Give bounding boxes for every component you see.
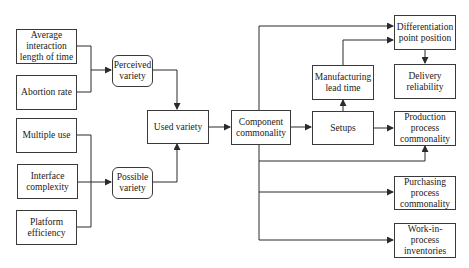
node-differentiation-point: Differentiation point position xyxy=(394,15,456,50)
edge-possible-to-used xyxy=(152,144,177,182)
node-label: Production process commonality xyxy=(397,112,453,145)
node-label: Purchasing process commonality xyxy=(397,177,453,210)
node-production-commonality: Production process commonality xyxy=(394,111,456,146)
node-label: Delivery reliability xyxy=(397,71,453,93)
node-component-commonality: Component commonality xyxy=(231,110,291,145)
edge-perceived-to-used xyxy=(152,70,177,109)
node-possible-variety: Possible variety xyxy=(112,167,153,199)
node-manufacturing-lead-time: Manufacturing lead time xyxy=(312,65,374,100)
node-label: Manufacturing lead time xyxy=(315,72,371,94)
node-abortion-rate: Abortion rate xyxy=(16,75,77,110)
node-multiple-use: Multiple use xyxy=(16,118,77,153)
edge-mlt-to-differentiation xyxy=(343,40,393,65)
causal-diagram: Average interaction length of time Abort… xyxy=(0,0,469,268)
node-used-variety: Used variety xyxy=(147,110,209,144)
node-delivery-reliability: Delivery reliability xyxy=(394,64,456,99)
node-wip-inventories: Work-in-process inventories xyxy=(394,223,456,258)
node-label: Possible variety xyxy=(115,172,150,194)
node-label: Average interaction length of time xyxy=(19,30,74,63)
node-label: Interface complexity xyxy=(20,171,75,193)
node-label: Multiple use xyxy=(23,130,71,141)
node-label: Platform efficiency xyxy=(19,217,74,239)
node-purchasing-commonality: Purchasing process commonality xyxy=(394,176,456,210)
node-label: Perceived variety xyxy=(114,60,151,82)
node-label: Abortion rate xyxy=(21,87,72,98)
edge-possible-inputs xyxy=(76,135,91,227)
edge-perceived-inputs xyxy=(76,46,91,92)
node-setups: Setups xyxy=(312,111,374,145)
node-avg-interaction: Average interaction length of time xyxy=(16,29,77,64)
node-label: Work-in-process inventories xyxy=(397,224,453,257)
node-label: Setups xyxy=(330,123,355,134)
node-label: Used variety xyxy=(154,122,202,133)
edge-component-to-production xyxy=(259,146,425,161)
node-label: Component commonality xyxy=(234,117,288,139)
node-platform-efficiency: Platform efficiency xyxy=(16,210,77,245)
node-perceived-variety: Perceived variety xyxy=(112,55,153,87)
node-label: Differentiation point position xyxy=(397,22,453,44)
node-interface-complexity: Interface complexity xyxy=(17,164,78,199)
